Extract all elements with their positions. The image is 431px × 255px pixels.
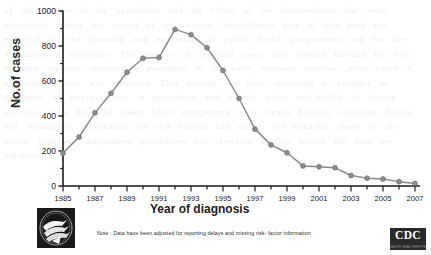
- footnote-text: Note : Data have been adjusted for repor…: [97, 230, 311, 236]
- x-tick-label: 1989: [119, 194, 136, 203]
- series-line-0: [63, 29, 415, 183]
- y-tick-label: 600: [42, 76, 57, 86]
- y-tick-label: 200: [42, 146, 57, 156]
- data-point: [285, 150, 290, 155]
- data-point: [365, 176, 370, 181]
- cdc-logo-tagline: SAFER·HEALTHIER·PEOPLE: [390, 245, 426, 249]
- data-point: [125, 70, 130, 75]
- data-point: [61, 151, 66, 156]
- y-tick-label: 0: [51, 181, 56, 191]
- data-point: [237, 96, 242, 101]
- data-point: [269, 142, 274, 147]
- x-tick-label: 1999: [279, 194, 296, 203]
- x-tick-label: 1985: [55, 194, 72, 203]
- data-point: [381, 177, 386, 182]
- y-tick-label: 400: [42, 111, 57, 121]
- data-point: [173, 27, 178, 32]
- data-point: [77, 135, 82, 140]
- x-tick-label: 2007: [407, 194, 424, 203]
- y-axis-title: No.of cases: [9, 28, 23, 118]
- data-point: [93, 110, 98, 115]
- data-point: [317, 164, 322, 169]
- cdc-logo: CDC SAFER·HEALTHIER·PEOPLE: [390, 228, 426, 250]
- data-point: [189, 32, 194, 37]
- data-point: [221, 68, 226, 73]
- data-point: [413, 181, 418, 186]
- data-point: [253, 127, 258, 132]
- x-tick-label: 2005: [375, 194, 392, 203]
- y-tick-label: 800: [42, 41, 57, 51]
- y-tick-label: 1000: [37, 6, 56, 16]
- x-axis-title: Year of diagnosis: [150, 202, 249, 216]
- x-tick-label: 2003: [343, 194, 360, 203]
- data-point: [157, 55, 162, 60]
- data-point: [349, 173, 354, 178]
- data-point: [109, 91, 114, 96]
- data-point: [301, 163, 306, 168]
- x-tick-label: 1987: [87, 194, 104, 203]
- x-tick-label: 2001: [311, 194, 328, 203]
- chart-figure: 0200400600800100019851987198919911993199…: [0, 0, 431, 255]
- data-point: [333, 165, 338, 170]
- data-point: [141, 56, 146, 61]
- hhs-seal-logo: [37, 208, 75, 248]
- cdc-logo-text: CDC: [395, 228, 421, 243]
- hhs-eagle-icon: [37, 208, 75, 248]
- data-point: [205, 45, 210, 50]
- data-point: [397, 179, 402, 184]
